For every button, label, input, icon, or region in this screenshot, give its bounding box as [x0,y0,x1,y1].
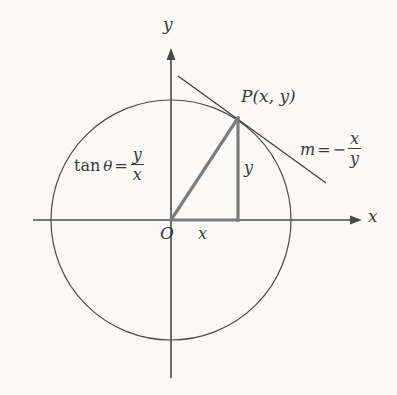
math-figure: x y O x y P(x, y) tanθ=yx m=−xy [0,0,397,395]
slope-denominator: y [348,148,361,167]
tangent-numerator: y [131,147,144,164]
triangle-hypotenuse [171,118,238,220]
theta-symbol: θ [103,157,112,175]
point-p-label: P(x, y) [241,88,296,105]
diagram-canvas [0,0,397,395]
tan-function-name: tan [74,156,100,175]
tangent-fraction: yx [131,147,144,183]
y-axis-label: y [163,16,173,33]
slope-numerator: x [348,131,361,148]
tangent-formula: tanθ=yx [74,148,145,184]
slope-fraction: xy [348,131,361,167]
y-axis-arrowhead [167,48,176,60]
tangent-denominator: x [131,164,144,183]
vertical-leg-label: y [244,160,253,176]
slope-minus-sign: − [333,140,346,159]
slope-equals-sign: = [317,140,330,159]
tangent-equals-sign: = [114,156,127,175]
horizontal-leg-label: x [198,226,207,242]
x-axis-arrowhead [350,216,362,225]
slope-formula: m=−xy [300,132,362,168]
x-axis-label: x [368,208,378,225]
origin-label: O [160,225,174,242]
slope-variable: m [300,140,315,159]
